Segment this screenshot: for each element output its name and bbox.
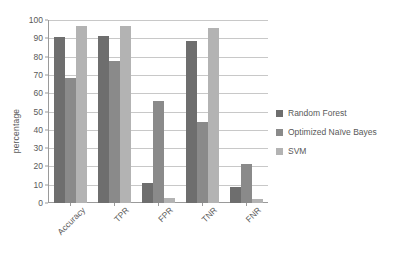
bar — [65, 78, 76, 203]
bar — [252, 199, 263, 203]
legend-label: Random Forest — [288, 108, 347, 118]
y-tick-label: 60 — [34, 88, 43, 98]
bar-group — [136, 20, 180, 203]
legend-swatch — [276, 110, 283, 117]
y-tick-label: 0 — [38, 198, 43, 208]
legend-swatch — [276, 148, 283, 155]
bar-groups — [48, 20, 268, 203]
bar — [109, 61, 120, 203]
bar-group — [92, 20, 136, 203]
y-tick-label: 30 — [34, 143, 43, 153]
legend-swatch — [276, 129, 283, 136]
legend-item[interactable]: SVM — [276, 146, 377, 156]
plot-area: 0102030405060708090100 — [48, 20, 268, 203]
bar — [208, 28, 219, 203]
y-tick-label: 80 — [34, 52, 43, 62]
y-tick-label: 40 — [34, 125, 43, 135]
legend: Random ForestOptimized Naïve BayesSVM — [276, 108, 377, 156]
y-tick-label: 90 — [34, 33, 43, 43]
bar — [230, 187, 241, 203]
bar — [120, 26, 131, 203]
y-tick-label: 70 — [34, 70, 43, 80]
y-axis-title-text: percentage — [11, 109, 21, 154]
legend-label: Optimized Naïve Bayes — [288, 127, 377, 137]
x-axis-label: FNR — [244, 205, 263, 224]
bar — [153, 101, 164, 203]
bar — [197, 122, 208, 203]
y-tick-label: 100 — [29, 15, 43, 25]
bar — [76, 26, 87, 203]
x-axis-label: TPR — [112, 205, 131, 224]
x-axis-label: TNR — [200, 205, 219, 224]
x-axis-label: FPR — [156, 205, 175, 224]
x-axis-labels: AccuracyTPRFPRTNRFNR — [48, 205, 268, 260]
y-tick-label: 50 — [34, 107, 43, 117]
bar — [142, 183, 153, 203]
bar-chart: percentage 0102030405060708090100 Accura… — [0, 0, 400, 262]
legend-item[interactable]: Optimized Naïve Bayes — [276, 127, 377, 137]
bar-group — [180, 20, 224, 203]
legend-label: SVM — [288, 146, 306, 156]
legend-item[interactable]: Random Forest — [276, 108, 377, 118]
bar-group — [48, 20, 92, 203]
bar — [241, 164, 252, 203]
bar — [164, 198, 175, 203]
bar — [186, 41, 197, 203]
bar — [98, 36, 109, 203]
y-tick-label: 20 — [34, 161, 43, 171]
y-tick-label: 10 — [34, 180, 43, 190]
bar — [54, 37, 65, 203]
x-axis-label: Accuracy — [55, 205, 87, 237]
y-axis-title: percentage — [8, 0, 24, 262]
bar-group — [224, 20, 268, 203]
